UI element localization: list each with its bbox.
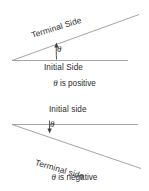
positive-angle-caption: θ is positive <box>0 78 149 88</box>
angle-diagram-figure: Terminal Side θ Initial Side θ is positi… <box>0 0 149 191</box>
angle-arrowhead-icon <box>48 129 52 134</box>
positive-caption-text: is positive <box>60 79 96 88</box>
positive-angle-panel: Terminal Side θ Initial Side θ is positi… <box>0 0 149 95</box>
negative-initial-side-label: Initial side <box>49 105 87 114</box>
negative-caption-text: is negative <box>58 173 97 182</box>
positive-initial-side-label: Initial Side <box>44 63 83 72</box>
positive-theta-symbol: θ <box>57 44 61 54</box>
terminal-side-ray <box>12 125 141 169</box>
negative-angle-panel: Initial side θ Terminal side θ is negati… <box>0 95 149 191</box>
negative-angle-caption: θ is negative <box>0 172 149 182</box>
positive-caption-symbol: θ <box>53 78 57 88</box>
negative-theta-symbol: θ <box>50 119 54 129</box>
negative-caption-symbol: θ <box>52 172 56 182</box>
